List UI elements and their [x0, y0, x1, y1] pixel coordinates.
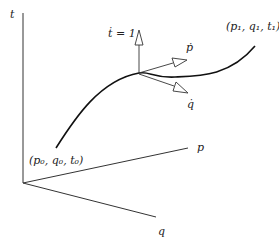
q-axis: [23, 183, 156, 217]
p-dot-label: ṗ: [186, 41, 193, 54]
p-axis-label: p: [197, 141, 204, 154]
q-dot-label: q̇: [187, 98, 194, 111]
start-point-label: (p₀, q₀, t₀): [29, 154, 83, 167]
t-axis-label: t: [10, 8, 15, 21]
tangent-vectors: [135, 30, 188, 93]
p-dot-arrowhead-icon: [172, 58, 187, 67]
q-axis-label: q: [158, 225, 165, 238]
trajectory-curve: [56, 46, 255, 148]
t-dot-arrowhead-icon: [135, 30, 143, 45]
axes: [23, 13, 188, 217]
t-dot-label: ṫ = 1: [108, 26, 136, 40]
p-dot-vector: [139, 63, 173, 73]
phase-space-diagram: t p q (p₀, q₀, t₀) (p₁, q₁, t₁) ṫ = 1 ṗ …: [0, 0, 279, 243]
q-dot-arrowhead-icon: [173, 82, 188, 93]
end-point-label: (p₁, q₁, t₁): [226, 20, 279, 33]
